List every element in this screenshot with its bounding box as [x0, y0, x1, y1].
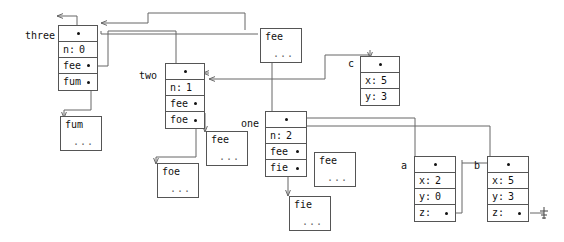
stub-box-fum[interactable]: fum ...: [60, 116, 102, 151]
stub-ellipsis: ...: [219, 151, 240, 162]
field-key: x:: [492, 175, 504, 186]
field-value: 2: [286, 128, 292, 143]
field-row-three-fee[interactable]: fee: [59, 58, 97, 74]
field-key: foe: [170, 114, 188, 125]
object-header-one: [266, 112, 306, 128]
field-key: y:: [492, 191, 504, 202]
header-pointer-dot: [77, 32, 80, 35]
object-box-a[interactable]: x: 2 y: 0 z:: [414, 156, 456, 222]
wire-two-foe-to-foe-stub: [156, 129, 196, 164]
field-row-two-foe[interactable]: foe: [166, 112, 204, 128]
var-label-two: two: [139, 70, 157, 81]
stub-box-foe[interactable]: foe ...: [157, 163, 199, 198]
field-value: 1: [186, 80, 192, 95]
field-key: x:: [365, 75, 377, 86]
field-row-three-fum[interactable]: fum: [59, 74, 97, 90]
var-label-c: c: [348, 58, 354, 69]
wire-three-fee-to-two: [91, 31, 176, 68]
wire-top-long-to-fee-stub: [101, 31, 258, 34]
wire-into-three-right-feed: [148, 13, 245, 30]
field-row-two-fee[interactable]: fee: [166, 96, 204, 112]
object-box-one[interactable]: n: 2 fee fie: [265, 111, 307, 177]
field-value: 3: [508, 189, 514, 204]
var-label-b: b: [474, 160, 480, 171]
field-row-three-n: n: 0: [59, 42, 97, 58]
field-row-one-n: n: 2: [266, 128, 306, 144]
field-row-c-x: x: 5: [361, 73, 399, 89]
field-row-one-fie[interactable]: fie: [266, 160, 306, 176]
object-box-three[interactable]: n: 0 fee fum: [58, 25, 98, 91]
object-header-a: [415, 157, 455, 173]
field-row-a-x: x: 2: [415, 173, 455, 189]
header-pointer-dot: [285, 118, 288, 121]
stub-ellipsis: ...: [170, 183, 191, 194]
stub-ellipsis: ...: [302, 216, 323, 227]
field-row-two-n: n: 1: [166, 80, 204, 96]
header-pointer-dot: [507, 163, 510, 166]
field-key: fee: [63, 60, 81, 71]
field-key: z:: [492, 207, 504, 218]
field-row-b-x: x: 5: [488, 173, 528, 189]
var-label-three: three: [25, 30, 55, 41]
stub-ellipsis: ...: [327, 172, 348, 183]
header-pointer-dot: [379, 63, 382, 66]
stub-label: foe: [162, 166, 180, 177]
field-pointer-dot: [87, 81, 90, 84]
field-value: 5: [381, 73, 387, 88]
field-pointer-dot: [194, 102, 197, 105]
object-box-c[interactable]: x: 5 y: 3: [360, 56, 400, 106]
field-value: 0: [435, 189, 441, 204]
field-key: fee: [170, 98, 188, 109]
field-key: y:: [419, 191, 431, 202]
field-pointer-dot: [87, 64, 90, 67]
field-pointer-dot: [445, 212, 448, 215]
object-header-b: [488, 157, 528, 173]
stub-box-fee-mid[interactable]: fee ...: [206, 131, 248, 166]
header-pointer-dot: [434, 163, 437, 166]
field-row-a-z[interactable]: z:: [415, 205, 455, 221]
field-value: 5: [508, 173, 514, 188]
stub-box-fee-one[interactable]: fee ...: [314, 152, 356, 187]
field-value: 2: [435, 173, 441, 188]
object-header-three: [59, 26, 97, 42]
object-header-c: [361, 57, 399, 73]
field-pointer-dot: [296, 167, 299, 170]
field-key: fee: [270, 146, 288, 157]
stub-label: fie: [294, 199, 312, 210]
stub-ellipsis: ...: [273, 48, 294, 59]
field-key: n:: [63, 44, 75, 55]
stub-label: fum: [65, 119, 83, 130]
field-key: y:: [365, 91, 377, 102]
field-key: fum: [63, 76, 81, 87]
field-row-b-z[interactable]: z:: [488, 205, 528, 221]
stub-box-fie[interactable]: fie ...: [289, 196, 331, 231]
object-diagram-canvas: three two one a b c n: 0 fee fum n: 1: [0, 0, 564, 242]
field-value: 0: [79, 42, 85, 57]
var-label-a: a: [401, 160, 407, 171]
field-value: 3: [381, 89, 387, 104]
object-header-two: [166, 64, 204, 80]
object-box-b[interactable]: x: 5 y: 3 z:: [487, 156, 529, 222]
field-pointer-dot: [296, 150, 299, 153]
stub-ellipsis: ...: [73, 136, 94, 147]
field-pointer-dot: [518, 212, 521, 215]
field-key: n:: [170, 82, 182, 93]
stub-box-fee-top[interactable]: fee ...: [260, 28, 302, 63]
field-row-a-y: y: 0: [415, 189, 455, 205]
field-key: x:: [419, 175, 431, 186]
field-key: fie: [270, 162, 288, 173]
field-row-one-fee[interactable]: fee: [266, 144, 306, 160]
stub-label: fee: [265, 31, 283, 42]
field-row-c-y: y: 3: [361, 89, 399, 105]
field-key: n:: [270, 130, 282, 141]
var-label-one: one: [241, 118, 259, 129]
field-row-b-y: y: 3: [488, 189, 528, 205]
field-pointer-dot: [194, 119, 197, 122]
object-box-two[interactable]: n: 1 fee foe: [165, 63, 205, 129]
stub-label: fee: [211, 134, 229, 145]
field-key: z:: [419, 207, 431, 218]
stub-label: fee: [319, 155, 337, 166]
header-pointer-dot: [184, 70, 187, 73]
